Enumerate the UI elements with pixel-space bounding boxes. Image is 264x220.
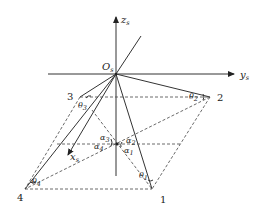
point-4-label: 4 (17, 192, 23, 203)
z-axis-label: zs (120, 14, 130, 27)
point-1-label: 1 (160, 194, 166, 205)
alpha-arc-right (121, 142, 122, 147)
diagram-canvas: zs ys xs Os 1 2 3 4 θ1 θ2 θ3 θ4 α1 α2 α3… (0, 0, 264, 220)
center-point (116, 143, 119, 146)
line-to-3 (80, 74, 116, 97)
origin-label: Os (102, 61, 114, 74)
x-axis-label: xs (70, 151, 80, 164)
oblique-line (116, 36, 141, 74)
alpha-3-label: α3 (100, 133, 110, 144)
line-to-2 (116, 74, 210, 97)
theta-3-label: θ3 (78, 101, 87, 112)
origin-point (115, 73, 117, 75)
theta-2-arc (203, 94, 204, 100)
edge-2-1 (152, 97, 210, 189)
alpha-1-label: α1 (124, 146, 134, 157)
coordinate-diagram: zs ys xs Os 1 2 3 4 θ1 θ2 θ3 θ4 α1 α2 α3… (0, 0, 264, 220)
y-axis-label: ys (239, 69, 250, 82)
point-2-label: 2 (217, 92, 223, 103)
alpha-arc-left (111, 139, 112, 146)
line-to-1 (116, 74, 152, 189)
point-3-label: 3 (67, 91, 73, 102)
theta-1-arc (148, 180, 153, 181)
